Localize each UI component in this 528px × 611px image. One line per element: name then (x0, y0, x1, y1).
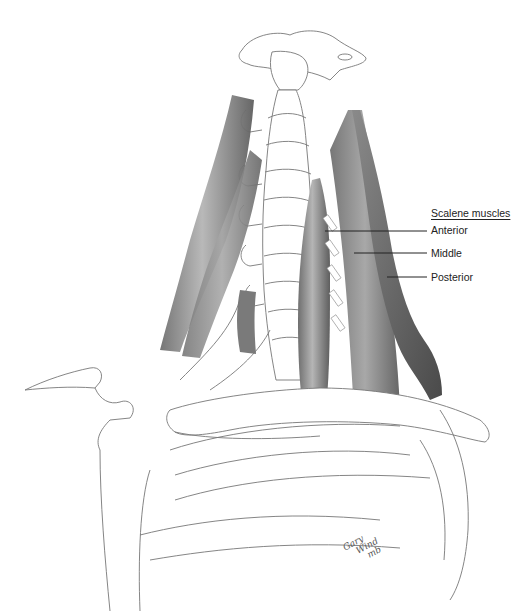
label-posterior: Posterior (431, 271, 473, 283)
label-anterior: Anterior (431, 224, 468, 236)
anatomy-figure: Scalene muscles Anterior Middle Posterio… (0, 0, 528, 611)
leader-lines (0, 0, 528, 611)
label-middle: Middle (431, 247, 462, 259)
